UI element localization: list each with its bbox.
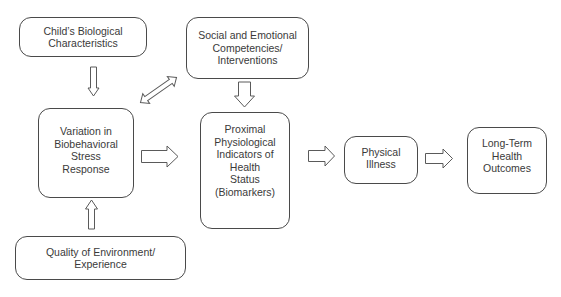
node-physical-illness: Physical Illness: [344, 136, 418, 184]
node-label: Variation in Biobehavioral Stress Respon…: [54, 125, 118, 175]
arrow-down-social-to-proximal: [235, 82, 255, 107]
node-child-biological-characteristics: Child’s Biological Characteristics: [19, 17, 147, 57]
arrow-right-proximal-to-illness: [309, 146, 335, 166]
node-label: Quality of Environment/ Experience: [46, 246, 155, 271]
node-label: Child’s Biological Characteristics: [43, 25, 122, 50]
node-label: Social and Emotional Competencies/ Inter…: [198, 29, 297, 67]
node-proximal-physiological-indicators: Proximal Physiological Indicators of Hea…: [200, 112, 290, 229]
node-label: Proximal Physiological Indicators of Hea…: [214, 123, 275, 198]
arrow-right-variation-to-proximal: [142, 146, 179, 167]
node-variation-stress-response: Variation in Biobehavioral Stress Respon…: [38, 108, 134, 198]
arrow-down-child-to-variation: [88, 67, 99, 96]
node-label: Long-Term Health Outcomes: [482, 137, 532, 175]
arrow-up-quality-to-variation: [86, 200, 98, 229]
arrow-right-illness-to-longterm: [426, 149, 453, 168]
node-label: Physical Illness: [361, 146, 400, 171]
node-social-emotional-competencies: Social and Emotional Competencies/ Inter…: [186, 17, 309, 79]
double-arrow-variation-social: [137, 72, 180, 107]
node-long-term-health-outcomes: Long-Term Health Outcomes: [467, 127, 547, 194]
node-quality-of-environment: Quality of Environment/ Experience: [15, 236, 186, 280]
